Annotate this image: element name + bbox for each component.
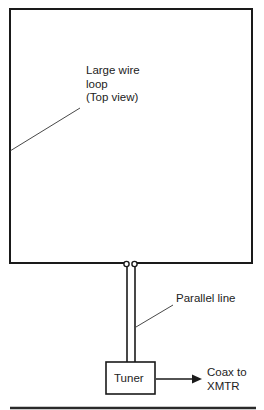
coax-label: Coax to XMTR — [207, 366, 247, 393]
parallel-line-label: Parallel line — [176, 292, 235, 306]
loop-label-line-2: loop — [86, 78, 140, 92]
loop-label-line-1: Large wire — [86, 64, 140, 78]
diagram-canvas — [0, 0, 264, 410]
parallel-leader-line — [136, 305, 173, 327]
loop-label-line-3: (Top view) — [86, 91, 140, 105]
feed-terminal-left — [124, 261, 129, 266]
loop-leader-line — [10, 108, 80, 151]
feed-terminal-right — [132, 261, 137, 266]
coax-label-line-2: XMTR — [207, 380, 247, 394]
coax-label-line-1: Coax to — [207, 366, 247, 380]
wire-loop — [10, 9, 252, 263]
tuner-label: Tuner — [114, 372, 144, 386]
loop-label: Large wire loop (Top view) — [86, 64, 140, 105]
arrow-head-icon — [192, 375, 202, 384]
